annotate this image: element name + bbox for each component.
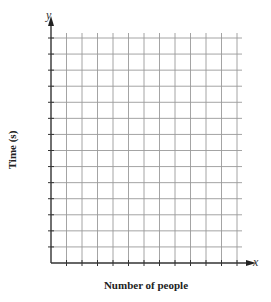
x-axis-variable: x <box>253 255 258 270</box>
axis-ticks <box>48 38 237 266</box>
blank-coordinate-grid: y x Time (s) Number of people <box>0 0 271 302</box>
gridlines <box>51 33 242 263</box>
y-axis <box>48 16 54 263</box>
y-axis-variable: y <box>46 8 51 23</box>
y-axis-label: Time (s) <box>6 131 18 170</box>
x-axis-label: Number of people <box>104 279 188 291</box>
grid-plot-area <box>0 0 271 302</box>
